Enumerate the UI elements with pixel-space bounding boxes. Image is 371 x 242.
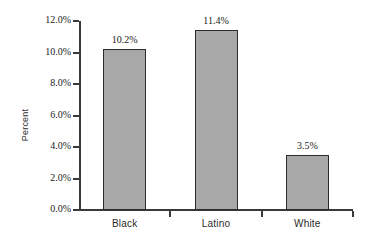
x-axis-category-label: White [267,218,347,229]
y-axis-tick-label: 4.0% [11,140,71,151]
bar-black [103,49,146,210]
x-axis-tick [352,211,354,217]
y-axis-tick [73,52,79,54]
y-axis-tick [73,83,79,85]
bar-chart: Percent 0.0%2.0%4.0%6.0%8.0%10.0%12.0% 1… [0,0,371,242]
y-axis-line [79,21,81,211]
y-axis-tick-label: 10.0% [11,46,71,57]
x-axis-category-label: Black [85,218,165,229]
bar-value-label: 11.4% [186,15,246,26]
x-axis-category-label: Latino [176,218,256,229]
bar-latino [195,30,238,210]
y-axis-tick-label: 12.0% [11,14,71,25]
x-axis-tick [169,211,171,217]
bar-white [286,155,329,210]
y-axis-tick [73,209,79,211]
y-axis-tick-label: 0.0% [11,203,71,214]
y-axis-tick-label: 2.0% [11,172,71,183]
y-axis-tick [73,178,79,180]
y-axis-tick [73,20,79,22]
y-axis-tick-label: 6.0% [11,109,71,120]
bar-value-label: 3.5% [277,140,337,151]
y-axis-tick [73,115,79,117]
bar-value-label: 10.2% [95,34,155,45]
y-axis-tick-label: 8.0% [11,77,71,88]
x-axis-tick [261,211,263,217]
y-axis-tick [73,146,79,148]
